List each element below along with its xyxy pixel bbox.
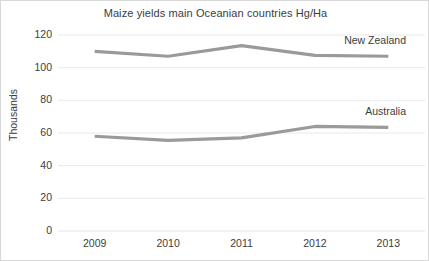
- series-label-australia: Australia: [365, 105, 406, 117]
- gridlines: [58, 35, 425, 231]
- series-line-new-zealand: [95, 46, 389, 57]
- series-label-new-zealand: New Zealand: [344, 34, 406, 46]
- series-lines: [95, 46, 389, 141]
- chart-container: Maize yields main Oceanian countries Hg/…: [0, 0, 429, 261]
